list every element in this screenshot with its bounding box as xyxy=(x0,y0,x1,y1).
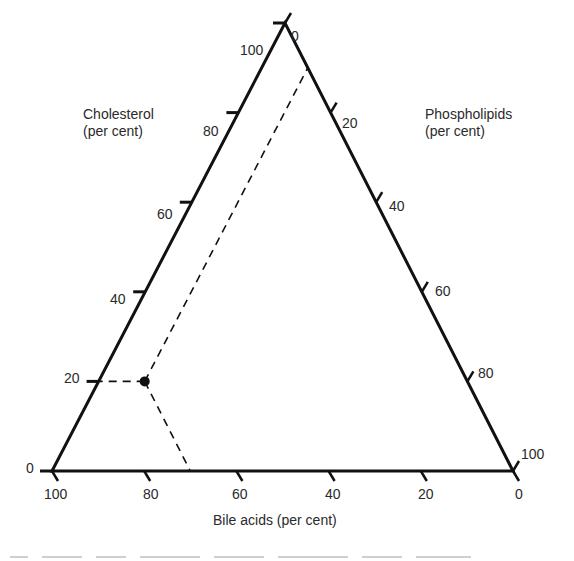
guide-to-bile-acids xyxy=(145,381,191,471)
phospholipids-tick-mark xyxy=(376,192,382,202)
phospholipids-tick-mark xyxy=(467,371,473,381)
cholesterol-tick-80: 80 xyxy=(203,123,219,139)
bile-acids-tick-100: 100 xyxy=(44,486,67,502)
phospholipids-tick-40: 40 xyxy=(389,198,405,214)
triangle-outline xyxy=(52,23,513,471)
cholesterol-tick-60: 60 xyxy=(157,206,173,222)
phospholipids-tick-60: 60 xyxy=(435,283,451,299)
data-point-marker xyxy=(140,376,150,386)
cholesterol-tick-20: 20 xyxy=(64,370,80,386)
cholesterol-tick-0: 0 xyxy=(26,460,34,476)
cholesterol-axis-title: Cholesterol (per cent) xyxy=(83,106,154,140)
phospholipids-tick-mark xyxy=(285,13,291,23)
phospholipids-axis-title: Phospholipids (per cent) xyxy=(425,106,512,140)
phospholipids-tick-80: 80 xyxy=(478,365,494,381)
triangle-frame xyxy=(52,23,513,471)
cholesterol-tick-40: 40 xyxy=(110,291,126,307)
guide-to-phospholipids xyxy=(145,68,308,382)
cholesterol-label: Cholesterol xyxy=(83,106,154,123)
phospholipids-label: Phospholipids xyxy=(425,106,512,123)
phospholipids-tick-100: 100 xyxy=(521,446,544,462)
phospholipids-tick-mark xyxy=(331,103,337,113)
bile-acids-tick-20: 20 xyxy=(418,486,434,502)
bile-acids-tick-mark xyxy=(513,471,519,481)
bile-acids-tick-80: 80 xyxy=(143,486,159,502)
bile-acids-tick-40: 40 xyxy=(325,486,341,502)
axis-ticks xyxy=(40,13,519,481)
phospholipids-tick-mark xyxy=(513,461,519,471)
cropped-caption xyxy=(10,556,530,561)
ternary-plot-svg xyxy=(0,0,574,561)
bile-acids-tick-0: 0 xyxy=(515,486,523,502)
cholesterol-unit: (per cent) xyxy=(83,123,154,140)
ternary-chart: Cholesterol (per cent) Phospholipids (pe… xyxy=(0,0,574,561)
bile-acids-axis-title: Bile acids (per cent) xyxy=(213,512,337,529)
phospholipids-tick-20: 20 xyxy=(342,115,358,131)
data-points xyxy=(140,376,150,386)
phospholipids-unit: (per cent) xyxy=(425,123,512,140)
cholesterol-tick-100: 100 xyxy=(240,42,263,58)
phospholipids-tick-mark xyxy=(422,282,428,292)
phospholipids-tick-0: 0 xyxy=(291,28,299,44)
bile-acids-tick-60: 60 xyxy=(232,486,248,502)
